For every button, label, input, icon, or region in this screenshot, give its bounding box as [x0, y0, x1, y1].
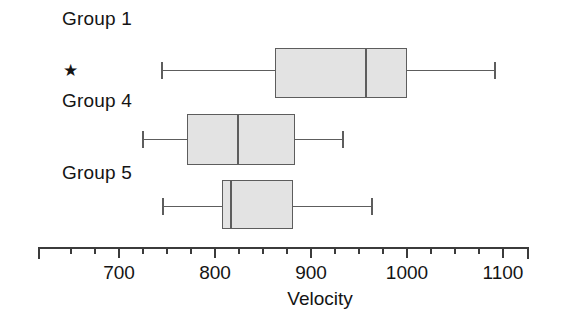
significance-star-icon: ★	[63, 62, 78, 79]
whisker-high-line-group-4	[295, 139, 343, 140]
median-line-group-5	[230, 180, 232, 229]
category-label-group-1: Group 1	[62, 8, 132, 30]
x-tick-minor-825	[238, 247, 240, 254]
whisker-low-line-group-5	[162, 206, 223, 207]
axis-start-cap	[38, 247, 40, 259]
median-line-group-4	[237, 114, 239, 165]
x-tick-minor-875	[286, 247, 288, 254]
x-tick-minor-1050	[454, 247, 456, 254]
category-label-group-4: Group 4	[62, 90, 132, 112]
x-tick-major-1100	[502, 247, 504, 258]
x-tick-minor-1025	[430, 247, 432, 254]
whisker-high-line-group-5	[293, 206, 372, 207]
x-tick-minor-975	[382, 247, 384, 254]
median-line-group-1	[365, 48, 367, 98]
whisker-high-cap-group-1	[494, 62, 496, 79]
x-axis-title: Velocity	[287, 288, 352, 310]
x-tick-major-800	[214, 247, 216, 258]
box-group-1	[275, 48, 407, 98]
x-tick-minor-1075	[478, 247, 480, 254]
x-tick-label-1100: 1100	[483, 262, 524, 284]
whisker-high-cap-group-5	[371, 198, 373, 215]
box-group-5	[222, 180, 293, 229]
boxplot-figure: Group 1 ★ Group 4 Group 5	[0, 0, 573, 320]
x-tick-minor-650	[70, 247, 72, 254]
x-tick-label-900: 900	[295, 262, 327, 284]
x-tick-minor-850	[262, 247, 264, 254]
box-group-4	[187, 114, 295, 165]
x-tick-minor-950	[358, 247, 360, 254]
x-tick-minor-775	[190, 247, 192, 254]
whisker-low-line-group-1	[161, 70, 275, 71]
whisker-low-cap-group-1	[161, 62, 163, 79]
x-tick-minor-925	[334, 247, 336, 254]
x-tick-minor-750	[166, 247, 168, 254]
category-label-group-5: Group 5	[62, 162, 132, 184]
x-tick-minor-675	[94, 247, 96, 254]
whisker-low-line-group-4	[142, 139, 187, 140]
x-tick-major-700	[118, 247, 120, 258]
whisker-high-cap-group-4	[342, 131, 344, 148]
x-tick-label-700: 700	[103, 262, 135, 284]
axis-end-cap	[527, 247, 529, 259]
whisker-high-line-group-1	[407, 70, 495, 71]
whisker-low-cap-group-4	[142, 131, 144, 148]
x-tick-label-1000: 1000	[386, 262, 428, 284]
whisker-low-cap-group-5	[162, 198, 164, 215]
x-tick-major-900	[310, 247, 312, 258]
x-tick-label-800: 800	[199, 262, 231, 284]
x-tick-minor-725	[142, 247, 144, 254]
x-tick-major-1000	[406, 247, 408, 258]
